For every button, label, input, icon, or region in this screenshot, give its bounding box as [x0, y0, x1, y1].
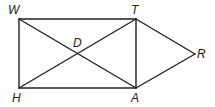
label-t: T — [131, 4, 138, 16]
segment-TR — [136, 19, 195, 54]
geometry-diagram: W T H A R D — [0, 0, 215, 107]
label-w: W — [8, 4, 19, 16]
diagram-lines — [0, 0, 215, 107]
label-h: H — [12, 92, 21, 104]
segment-RA — [136, 54, 195, 88]
label-r: R — [197, 48, 206, 60]
label-a: A — [131, 92, 139, 104]
label-d: D — [73, 37, 82, 49]
